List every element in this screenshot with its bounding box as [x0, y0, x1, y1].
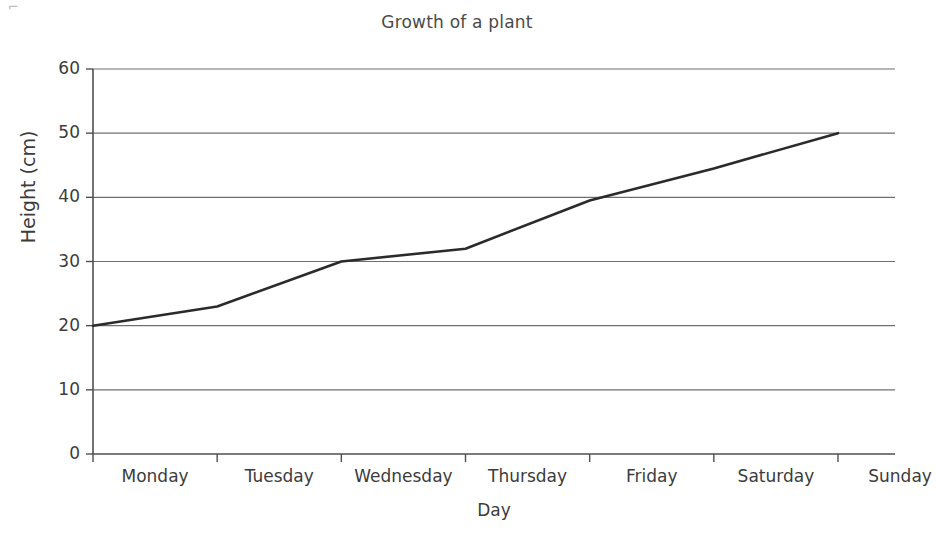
x-tick-label: Wednesday: [343, 468, 463, 485]
y-tick-label: 50: [34, 124, 80, 141]
y-tick-label: 20: [34, 317, 80, 334]
y-tick-label: 10: [34, 381, 80, 398]
y-tick-label: 40: [34, 188, 80, 205]
x-tick-group: [93, 454, 838, 462]
y-tick-label: 30: [34, 253, 80, 270]
y-tick-label: 0: [34, 445, 80, 462]
x-tick-label: Friday: [592, 468, 712, 485]
data-series-line: [93, 133, 838, 326]
x-tick-label: Tuesday: [219, 468, 339, 485]
gridline-group: [93, 69, 895, 390]
x-tick-label: Sunday: [840, 468, 936, 485]
y-tick-label: 60: [34, 60, 80, 77]
x-tick-label: Thursday: [468, 468, 588, 485]
x-tick-label: Monday: [95, 468, 215, 485]
x-tick-label: Saturday: [716, 468, 836, 485]
y-tick-group: [86, 69, 93, 454]
